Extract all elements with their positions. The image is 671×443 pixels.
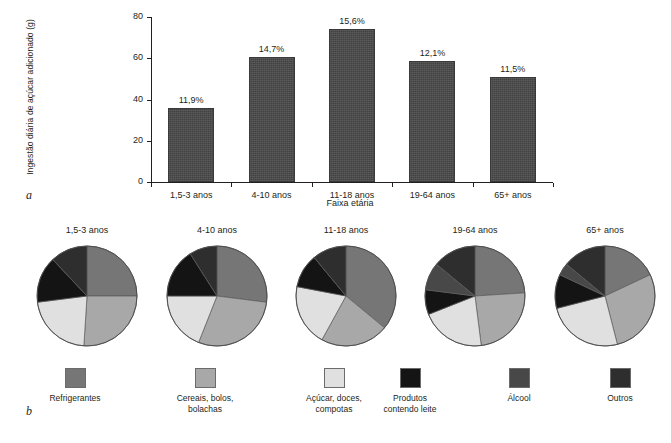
y-tick-label: 0	[121, 177, 143, 186]
pie-chart-group: 11-18 anos	[281, 225, 411, 352]
y-tick-label: 60	[121, 53, 143, 62]
bar-value-label: 12,1%	[402, 48, 462, 58]
y-tick-mark	[147, 17, 151, 18]
legend-item: Outros	[565, 368, 671, 404]
y-tick-mark	[147, 141, 151, 142]
pie-title: 19-64 anos	[410, 225, 540, 235]
pie-title: 11-18 anos	[281, 225, 411, 235]
pie-wrap	[410, 240, 540, 352]
bar-value-label: 15,6%	[322, 16, 382, 26]
pie-chart	[419, 240, 531, 352]
pie-chart	[31, 240, 143, 352]
y-axis-title: Ingestão diária de açúcar adicionado (g)	[25, 7, 35, 187]
bar	[490, 77, 536, 182]
legend-label: Outros	[565, 393, 671, 404]
pie-title: 4-10 anos	[152, 225, 282, 235]
legend-item: Produtoscontendo leite	[355, 368, 465, 415]
pie-chart-group: 19-64 anos	[410, 225, 540, 352]
pie-slice	[475, 293, 525, 346]
y-axis-line	[151, 17, 152, 182]
x-tick-mark	[151, 183, 152, 187]
x-axis-title: Faixa etária	[140, 198, 560, 208]
pie-charts-panel: 1,5-3 anos4-10 anos11-18 anos19-64 anos6…	[0, 225, 671, 370]
pie-chart	[290, 240, 402, 352]
legend-label: Refrigerantes	[20, 393, 130, 404]
pie-wrap	[152, 240, 282, 352]
pie-chart	[549, 240, 661, 352]
legend-swatch	[195, 368, 216, 388]
y-tick-label: 20	[121, 136, 143, 145]
legend-label: Cereais, bolos,bolachas	[150, 393, 260, 415]
pie-slice	[84, 296, 137, 346]
pie-chart-group: 1,5-3 anos	[22, 225, 152, 352]
bar-chart-panel: Ingestão diária de açúcar adicionado (g)…	[0, 0, 671, 215]
y-tick-mark	[147, 100, 151, 101]
pie-wrap	[281, 240, 411, 352]
pie-chart	[161, 240, 273, 352]
y-tick-label: 40	[121, 95, 143, 104]
bar-value-label: 11,9%	[161, 95, 221, 105]
pie-wrap	[22, 240, 152, 352]
x-tick-mark	[312, 183, 313, 187]
pie-slice	[37, 296, 87, 346]
panel-letter-a: a	[26, 188, 32, 203]
bar	[409, 61, 455, 182]
pie-slice	[475, 246, 525, 296]
x-tick-mark	[473, 183, 474, 187]
legend-item: Refrigerantes	[20, 368, 130, 404]
pie-title: 65+ anos	[540, 225, 670, 235]
y-tick-label: 80	[121, 12, 143, 21]
bar-value-label: 14,7%	[242, 44, 302, 54]
pie-chart-group: 65+ anos	[540, 225, 670, 352]
figure-root: Ingestão diária de açúcar adicionado (g)…	[0, 0, 671, 443]
legend-item: Cereais, bolos,bolachas	[150, 368, 260, 415]
bar	[168, 108, 214, 182]
legend-swatch	[324, 368, 345, 388]
legend-label: Álcool	[464, 393, 574, 404]
legend-item: Álcool	[464, 368, 574, 404]
y-tick-mark	[147, 58, 151, 59]
x-tick-mark	[553, 183, 554, 187]
legend-swatch	[610, 368, 631, 388]
bar	[249, 57, 295, 182]
pie-chart-group: 4-10 anos	[152, 225, 282, 352]
pie-slice	[87, 246, 137, 296]
pie-slice	[217, 246, 267, 302]
bar	[329, 29, 375, 182]
legend-swatch	[400, 368, 421, 388]
legend: RefrigerantesCereais, bolos,bolachasAçúc…	[0, 368, 671, 443]
x-axis-line	[151, 182, 553, 183]
pie-wrap	[540, 240, 670, 352]
x-tick-mark	[392, 183, 393, 187]
pie-title: 1,5-3 anos	[22, 225, 152, 235]
x-tick-mark	[231, 183, 232, 187]
bar-value-label: 11,5%	[483, 64, 543, 74]
legend-label: Produtoscontendo leite	[355, 393, 465, 415]
legend-swatch	[65, 368, 86, 388]
legend-swatch	[509, 368, 530, 388]
